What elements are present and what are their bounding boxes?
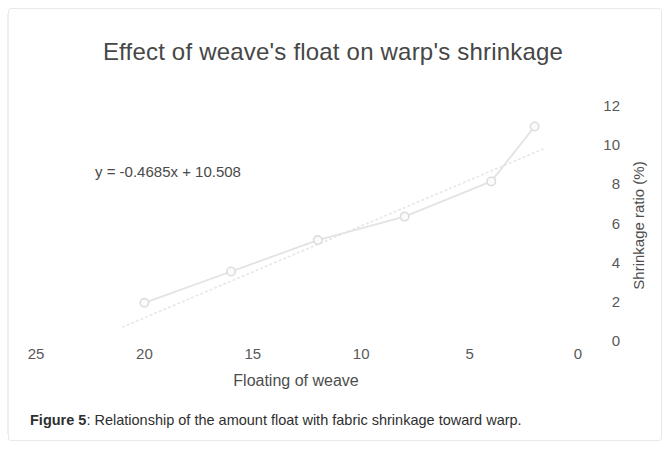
y-axis-tick-label: 12 [603, 98, 620, 113]
data-point-marker [227, 267, 235, 275]
y-axis-tick-label: 8 [612, 176, 620, 191]
x-axis-title: Floating of weave [0, 372, 592, 390]
plot-area [0, 90, 592, 345]
x-axis-tick-label: 25 [28, 345, 45, 362]
y-axis-title-label: Shrinkage ratio (%) [630, 161, 647, 289]
y-axis-title: Shrinkage ratio (%) [627, 120, 649, 330]
y-axis-tick-label: 0 [612, 333, 620, 348]
x-axis-tick-label: 10 [353, 345, 370, 362]
figure-caption-text: Relationship of the amount float with fa… [90, 412, 521, 428]
y-axis-tick-label: 4 [612, 254, 620, 269]
x-axis-tick-label: 15 [244, 345, 261, 362]
y-axis: 024681012 [592, 90, 626, 345]
data-point-marker [530, 122, 538, 130]
data-markers [140, 122, 539, 307]
data-point-marker [400, 212, 408, 220]
y-axis-tick-label: 6 [612, 215, 620, 230]
plot-svg [0, 90, 592, 345]
data-point-marker [487, 177, 495, 185]
y-axis-tick-label: 2 [612, 293, 620, 308]
chart-title: Effect of weave's float on warp's shrink… [0, 38, 666, 66]
chart: Effect of weave's float on warp's shrink… [0, 0, 670, 400]
data-point-marker [314, 236, 322, 244]
figure-caption-label: Figure 5 [30, 412, 86, 428]
series-line-path [144, 127, 534, 303]
data-series [144, 127, 534, 303]
figure-page: Effect of weave's float on warp's shrink… [0, 0, 670, 449]
data-point-marker [140, 299, 148, 307]
x-axis: 2520151050 [0, 345, 600, 367]
figure-caption: Figure 5: Relationship of the amount flo… [30, 412, 645, 428]
x-axis-tick-label: 0 [574, 345, 582, 362]
y-axis-tick-label: 10 [603, 137, 620, 152]
trendline-equation: y = -0.4685x + 10.508 [95, 163, 241, 180]
x-axis-tick-label: 20 [136, 345, 153, 362]
x-axis-tick-label: 5 [465, 345, 473, 362]
